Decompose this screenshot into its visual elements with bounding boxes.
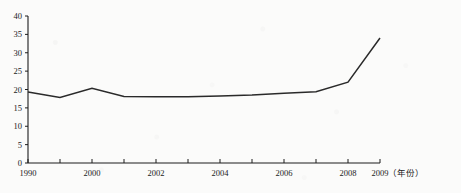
y-tick-label: 20: [14, 85, 23, 95]
y-tick-label: 15: [14, 103, 23, 113]
x-axis-ticks: 1990200020022004200620082009: [20, 159, 389, 178]
x-tick-label: 2000: [84, 168, 101, 178]
y-tick-label: 40: [14, 11, 23, 21]
x-tick-label: 2009: [372, 168, 389, 178]
x-axis-title: （年份）: [388, 168, 424, 178]
line-chart: 0510152025303540 19902000200220042006200…: [0, 0, 461, 193]
y-tick-label: 0: [18, 158, 22, 168]
x-tick-label: 1990: [20, 168, 37, 178]
chart-canvas: 0510152025303540 19902000200220042006200…: [0, 0, 461, 193]
y-axis-ticks: 0510152025303540: [14, 11, 29, 168]
x-tick-label: 2006: [276, 168, 293, 178]
y-tick-label: 25: [14, 66, 23, 76]
x-tick-label: 2002: [148, 168, 165, 178]
y-tick-label: 5: [18, 140, 22, 150]
x-tick-label: 2004: [212, 168, 230, 178]
y-tick-label: 35: [14, 29, 23, 39]
x-tick-label: 2008: [340, 168, 357, 178]
y-tick-label: 30: [14, 48, 23, 58]
y-tick-label: 10: [14, 121, 23, 131]
data-series-line: [28, 38, 380, 98]
